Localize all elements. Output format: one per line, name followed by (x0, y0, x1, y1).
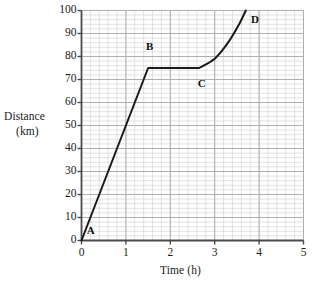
chart-canvas (0, 0, 322, 285)
y-tick-label-100: 100 (53, 3, 77, 15)
x-tick-label-1: 1 (118, 246, 134, 258)
x-tick-label-3: 3 (207, 246, 223, 258)
y-tick-label-50: 50 (53, 118, 77, 130)
x-tick-label-4: 4 (251, 246, 267, 258)
y-axis-title-line2: (km) (16, 125, 39, 137)
point-label-d: D (251, 13, 259, 25)
y-tick-label-80: 80 (53, 49, 77, 61)
y-tick-label-40: 40 (53, 141, 77, 153)
y-tick-label-60: 60 (53, 95, 77, 107)
x-axis-title: Time (h) (160, 264, 201, 276)
y-tick-label-90: 90 (53, 26, 77, 38)
point-label-a: A (87, 224, 95, 236)
x-tick-label-0: 0 (74, 246, 90, 258)
y-tick-label-70: 70 (53, 72, 77, 84)
point-label-b: B (146, 40, 153, 52)
y-tick-label-30: 30 (53, 164, 77, 176)
y-axis-title-line1: Distance (4, 110, 45, 122)
y-tick-label-10: 10 (53, 210, 77, 222)
y-tick-label-0: 0 (53, 233, 77, 245)
x-tick-label-5: 5 (296, 246, 312, 258)
axis-ticks (78, 11, 304, 245)
y-tick-label-20: 20 (53, 187, 77, 199)
x-tick-label-2: 2 (162, 246, 178, 258)
point-label-c: C (198, 77, 206, 89)
major-gridlines (82, 11, 304, 241)
distance-time-chart: Distance (km) Time (h) 01020304050607080… (0, 0, 322, 285)
